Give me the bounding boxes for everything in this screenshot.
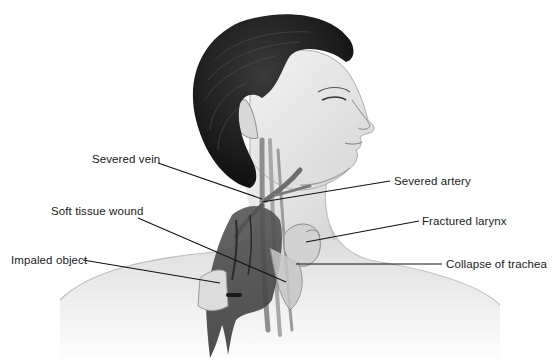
label-impaled-object: Impaled object <box>11 253 87 267</box>
label-fractured-larynx: Fractured larynx <box>422 214 507 228</box>
label-collapse-of-trachea: Collapse of trachea <box>446 257 547 271</box>
neck-injuries-diagram: Severed vein Soft tissue wound Impaled o… <box>0 0 554 363</box>
label-severed-vein: Severed vein <box>92 152 160 166</box>
label-severed-artery: Severed artery <box>394 174 471 188</box>
label-soft-tissue-wound: Soft tissue wound <box>51 204 143 218</box>
